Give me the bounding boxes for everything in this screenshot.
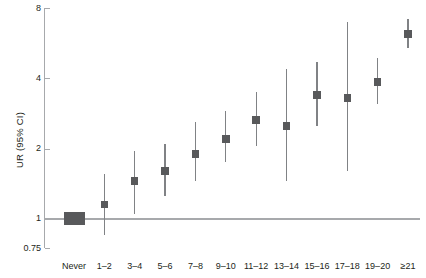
x-axis-tick-label: 13–14 [274, 261, 299, 271]
x-axis-tick-label: 9–10 [216, 261, 236, 271]
x-axis-tick-label: 1–2 [97, 261, 112, 271]
data-point-marker [101, 201, 109, 209]
data-series [0, 0, 426, 278]
data-point-marker [344, 94, 352, 102]
x-axis-tick-label: 5–6 [158, 261, 173, 271]
x-axis-tick-label: ≥21 [401, 261, 416, 271]
data-point-marker [283, 122, 291, 130]
x-axis-tick-label: Never [62, 261, 86, 271]
data-point-marker [404, 30, 412, 38]
x-axis-tick-label: 17–18 [335, 261, 360, 271]
data-point-marker [252, 116, 260, 124]
x-axis-tick-label: 19–20 [365, 261, 390, 271]
x-axis-tick-label: 11–12 [244, 261, 268, 271]
data-point-marker [374, 78, 382, 86]
data-point-marker [313, 91, 321, 99]
data-point-marker [192, 150, 200, 158]
data-point-marker [131, 177, 139, 185]
forest-plot-chart: UR (95% CI) 84210.75 Never1–23–45–67–89–… [0, 0, 426, 278]
reference-marker [64, 212, 85, 225]
data-point-marker [222, 135, 230, 143]
x-axis-tick-label: 15–16 [304, 261, 329, 271]
data-point-marker [161, 167, 169, 175]
x-axis-tick-label: 7–8 [188, 261, 203, 271]
x-axis-tick-label: 3–4 [127, 261, 142, 271]
